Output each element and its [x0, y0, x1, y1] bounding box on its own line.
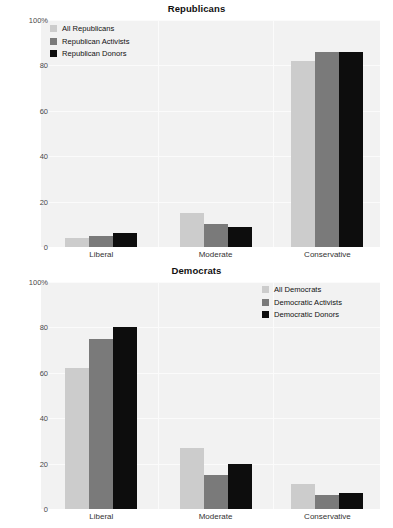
bar-conservative-all-republicans [291, 61, 315, 247]
gridline-vertical [273, 20, 274, 247]
legend-swatch-icon [50, 50, 57, 57]
bar-moderate-all-republicans [180, 213, 204, 247]
chart-title-democrats: Democrats [0, 265, 393, 276]
figure-democrats: Democrats 020406080100% LiberalModerateC… [0, 262, 393, 528]
gridline-vertical [158, 20, 159, 247]
x-tick-label-liberal: Liberal [89, 512, 113, 521]
y-tick-label: 0 [2, 505, 48, 514]
chart-page: Republicans 020406080100% LiberalModerat… [0, 0, 393, 528]
bar-conservative-democratic-activists [315, 495, 339, 509]
legend-swatch-icon [50, 38, 57, 45]
legend-swatch-icon [262, 299, 269, 306]
legend-swatch-icon [50, 25, 57, 32]
legend-item[interactable]: Republican Donors [50, 50, 130, 58]
bar-liberal-all-republicans [65, 238, 89, 247]
legend-label: All Democrats [274, 286, 321, 294]
y-tick-label: 20 [2, 459, 48, 468]
legend-label: Republican Donors [62, 50, 127, 58]
legend-label: Democratic Donors [274, 311, 339, 319]
y-tick-label: 80 [2, 61, 48, 70]
bar-moderate-democratic-activists [204, 475, 228, 509]
gridline [41, 20, 380, 21]
bar-liberal-democratic-donors [113, 327, 137, 509]
gridline-vertical [158, 282, 159, 509]
bar-conservative-republican-activists [315, 52, 339, 247]
legend-item[interactable]: Republican Activists [50, 38, 130, 46]
bar-liberal-all-democrats [65, 368, 89, 509]
legend-label: Democratic Activists [274, 299, 342, 307]
y-tick-label: 100% [2, 16, 48, 25]
legend-swatch-icon [262, 286, 269, 293]
bar-conservative-democratic-donors [339, 493, 363, 509]
chart-title-republicans: Republicans [0, 3, 393, 14]
gridline [41, 327, 380, 328]
bar-moderate-democratic-donors [228, 464, 252, 509]
y-tick-label: 60 [2, 106, 48, 115]
legend-republicans: All RepublicansRepublican ActivistsRepub… [50, 25, 130, 63]
legend-item[interactable]: All Republicans [50, 25, 130, 33]
bar-conservative-republican-donors [339, 52, 363, 247]
legend-item[interactable]: Democratic Activists [262, 299, 342, 307]
bar-moderate-republican-donors [228, 227, 252, 247]
y-tick-label: 0 [2, 243, 48, 252]
bar-liberal-democratic-activists [89, 339, 113, 509]
legend-swatch-icon [262, 311, 269, 318]
legend-label: All Republicans [62, 25, 114, 33]
legend-item[interactable]: Democratic Donors [262, 311, 342, 319]
x-tick-label-conservative: Conservative [304, 250, 351, 259]
bar-liberal-republican-donors [113, 233, 137, 247]
bar-liberal-republican-activists [89, 236, 113, 247]
y-tick-label: 20 [2, 197, 48, 206]
y-tick-label: 100% [2, 278, 48, 287]
x-tick-label-moderate: Moderate [199, 250, 233, 259]
bar-moderate-all-democrats [180, 448, 204, 509]
gridline [41, 282, 380, 283]
legend-democrats: All DemocratsDemocratic ActivistsDemocra… [262, 286, 342, 324]
y-tick-label: 60 [2, 368, 48, 377]
y-tick-label: 40 [2, 152, 48, 161]
x-tick-label-liberal: Liberal [89, 250, 113, 259]
y-tick-label: 40 [2, 414, 48, 423]
figure-republicans: Republicans 020406080100% LiberalModerat… [0, 0, 393, 266]
bar-conservative-all-democrats [291, 484, 315, 509]
legend-label: Republican Activists [62, 38, 130, 46]
x-tick-label-conservative: Conservative [304, 512, 351, 521]
y-tick-label: 80 [2, 323, 48, 332]
x-tick-label-moderate: Moderate [199, 512, 233, 521]
bar-moderate-republican-activists [204, 224, 228, 247]
legend-item[interactable]: All Democrats [262, 286, 342, 294]
